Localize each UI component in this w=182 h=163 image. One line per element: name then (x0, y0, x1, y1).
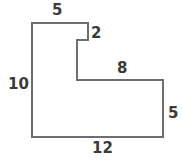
dimension-label-middle: 8 (117, 61, 127, 76)
dimension-label-top: 5 (52, 3, 62, 18)
geometry-figure: 5 2 8 10 5 12 (0, 0, 182, 163)
dimension-label-notch: 2 (91, 26, 101, 41)
dimension-label-right: 5 (168, 106, 178, 121)
dimension-label-bottom: 12 (92, 141, 113, 156)
dimension-label-left: 10 (8, 77, 29, 92)
